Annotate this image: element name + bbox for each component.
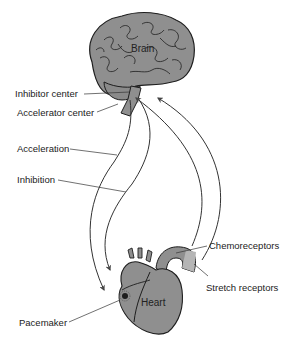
inhibition-label: Inhibition bbox=[17, 175, 55, 185]
cardiac-control-diagram: Brain Heart Inhibitor center Accelerator… bbox=[0, 0, 292, 345]
brain-label: Brain bbox=[131, 44, 154, 54]
chemoreceptors-label: Chemoreceptors bbox=[209, 241, 279, 251]
inhibitor-center-label: Inhibitor center bbox=[15, 89, 78, 99]
accelerator-center-label: Accelerator center bbox=[17, 108, 94, 118]
nerve-pathways bbox=[90, 98, 221, 290]
heart-illustration bbox=[119, 247, 196, 334]
stretch-receptors-label: Stretch receptors bbox=[206, 283, 278, 293]
pacemaker-label: Pacemaker bbox=[19, 318, 67, 328]
heart-label: Heart bbox=[141, 298, 165, 308]
acceleration-label: Acceleration bbox=[17, 144, 69, 154]
brain-illustration bbox=[90, 13, 195, 116]
